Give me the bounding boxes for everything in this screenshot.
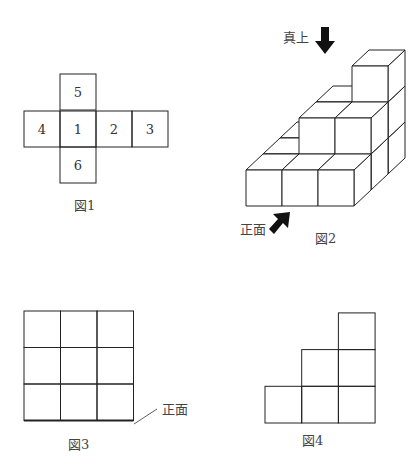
net-face-number: 6 (74, 158, 82, 173)
net-face-number: 3 (146, 122, 154, 137)
grid-cell (61, 348, 98, 385)
front-view-cell (338, 386, 375, 423)
grid-cell (97, 384, 134, 421)
figure-1-caption: 図1 (74, 199, 95, 212)
figure-4-front-view (265, 313, 375, 423)
net-face-number: 5 (74, 85, 82, 100)
grid-cell (61, 311, 98, 348)
diagram-canvas: 541236 (0, 0, 419, 464)
grid-cell (24, 384, 61, 421)
cube-front-face (246, 170, 282, 206)
down-arrow-icon (315, 27, 335, 54)
cube-front-face (299, 118, 335, 154)
cube-front-face (335, 118, 371, 154)
figure-2-caption: 図2 (315, 232, 336, 245)
net-face-number: 1 (74, 122, 82, 137)
net-face-number: 4 (38, 122, 46, 137)
grid-cell (24, 311, 61, 348)
cube-front-face (318, 170, 354, 206)
figure-2-cube-stack (246, 50, 405, 206)
grid-cell (97, 311, 134, 348)
front-view-cell (338, 313, 375, 350)
front-view-cell (338, 350, 375, 387)
figure-4-caption: 図4 (302, 434, 323, 447)
figure-1-cube-net: 541236 (24, 74, 168, 183)
figure-3-caption: 図3 (68, 438, 89, 451)
grid-cell (61, 384, 98, 421)
front-view-cell (265, 386, 302, 423)
grid-cell (24, 348, 61, 385)
front-view-cell (302, 350, 339, 387)
front-view-label: 正面 (240, 223, 266, 236)
figure-3-front-label: 正面 (162, 403, 188, 416)
front-view-cell (302, 386, 339, 423)
grid-cell (97, 348, 134, 385)
top-view-label: 真上 (283, 31, 309, 44)
cube-front-face (352, 66, 388, 102)
front-leader-line (134, 409, 157, 424)
net-face-number: 2 (110, 122, 118, 137)
cube-front-face (282, 170, 318, 206)
front-arrow-icon (269, 212, 290, 234)
figure-3-top-view-grid (24, 311, 134, 421)
